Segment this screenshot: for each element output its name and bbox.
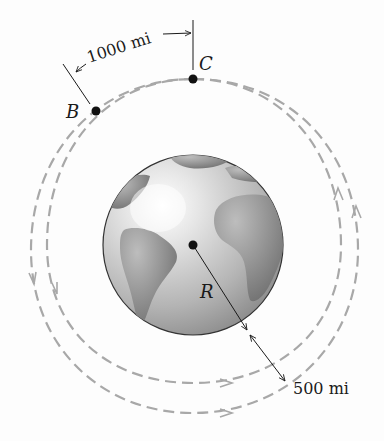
point-c (189, 75, 198, 84)
point-b (92, 107, 101, 116)
orbit-direction-arrow-icon (220, 409, 232, 417)
altitude-dimension (250, 335, 285, 381)
point-b-label: B (65, 101, 79, 122)
orbit-diagram: R 500 mi B C 1000 mi (0, 0, 384, 441)
orbit-direction-arrow-icon (334, 188, 343, 200)
orbit-direction-arrow-icon (220, 379, 232, 387)
radius-label: R (199, 281, 214, 302)
altitude-label: 500 mi (293, 379, 349, 398)
arc-distance-label: 1000 mi (84, 28, 153, 66)
point-c-label: C (199, 53, 213, 74)
earth-center-point (189, 241, 198, 250)
